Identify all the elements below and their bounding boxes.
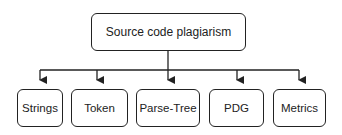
node-label: Parse-Tree	[139, 102, 196, 114]
node-metrics: Metrics	[273, 89, 326, 127]
node-parse-tree: Parse-Tree	[136, 89, 200, 127]
node-strings: Strings	[17, 89, 63, 127]
node-label: Metrics	[281, 102, 318, 114]
root-label: Source code plagiarism	[106, 25, 231, 39]
node-token: Token	[71, 89, 128, 127]
node-label: Strings	[22, 102, 58, 114]
root-node: Source code plagiarism	[91, 13, 246, 51]
node-label: Token	[84, 102, 115, 114]
node-pdg: PDG	[209, 89, 264, 127]
node-label: PDG	[224, 102, 249, 114]
